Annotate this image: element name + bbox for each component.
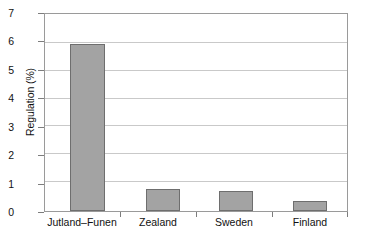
y-tick-label-7: 7 <box>0 8 14 18</box>
y-axis-title: Regulation (%) <box>24 32 36 172</box>
x-label-finland: Finland <box>272 216 348 228</box>
x-label-sweden: Sweden <box>196 216 272 228</box>
y-tick-label-0: 0 <box>0 207 14 217</box>
bar-jutland-funen <box>70 44 105 211</box>
plot-area <box>44 13 348 212</box>
y-tick-label-4: 4 <box>0 93 14 103</box>
bar-zealand <box>146 189 180 211</box>
y-tick-mark-0 <box>38 212 44 213</box>
bar-chart: Regulation (%) 7 6 5 4 3 2 1 0 Jutland–F… <box>0 0 366 238</box>
x-label-zealand: Zealand <box>120 216 196 228</box>
bar-finland <box>293 201 327 211</box>
x-label-jutland-funen: Jutland–Funen <box>44 216 120 228</box>
y-tick-label-1: 1 <box>0 179 14 189</box>
y-tick-label-5: 5 <box>0 65 14 75</box>
y-tick-label-3: 3 <box>0 122 14 132</box>
y-tick-label-6: 6 <box>0 36 14 46</box>
y-tick-label-2: 2 <box>0 150 14 160</box>
bar-sweden <box>219 191 253 211</box>
gridline-6 <box>45 42 347 43</box>
